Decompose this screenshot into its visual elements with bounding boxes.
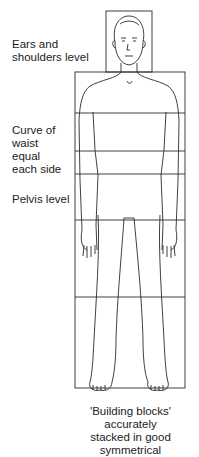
legs-icon — [90, 215, 169, 391]
caption-line: accurately — [62, 418, 199, 431]
head-icon — [113, 16, 146, 65]
caption-line: 'Building blocks' — [62, 405, 199, 418]
torso-icon — [79, 63, 179, 258]
diagram-caption: 'Building blocks' accurately stacked in … — [62, 405, 199, 457]
caption-line: symmetrical — [62, 444, 199, 457]
caption-line: stacked in good — [62, 431, 199, 444]
body-block — [75, 72, 185, 388]
